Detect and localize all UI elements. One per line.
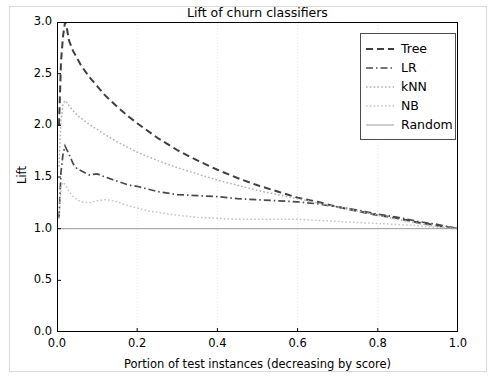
- x-tick-label: 0.4: [194, 336, 240, 350]
- x-tick-label: 0.6: [275, 336, 321, 350]
- legend-label: Tree: [401, 41, 427, 56]
- legend-swatch-nb-icon: [365, 99, 395, 113]
- legend-item-knn[interactable]: kNN: [365, 77, 451, 96]
- legend-item-tree[interactable]: Tree: [365, 39, 451, 58]
- legend[interactable]: TreeLRkNNNBRandom: [360, 33, 456, 140]
- figure: Lift of churn classifiers Lift 0.00.51.0…: [0, 0, 496, 384]
- series-line-lr: [59, 146, 458, 229]
- x-tick-label: 1.0: [435, 336, 481, 350]
- legend-label: Random: [401, 117, 453, 132]
- x-axis-label: Portion of test instances (decreasing by…: [57, 357, 458, 371]
- x-tick-label: 0.0: [34, 336, 80, 350]
- legend-label: kNN: [401, 79, 427, 94]
- x-tick-label: 0.8: [355, 336, 401, 350]
- legend-swatch-tree-icon: [365, 42, 395, 56]
- legend-item-nb[interactable]: NB: [365, 96, 451, 115]
- series-line-nb: [59, 182, 458, 229]
- legend-swatch-lr-icon: [365, 61, 395, 75]
- legend-item-random[interactable]: Random: [365, 115, 451, 134]
- legend-label: NB: [401, 98, 419, 113]
- legend-swatch-knn-icon: [365, 80, 395, 94]
- x-tick-label: 0.2: [114, 336, 160, 350]
- legend-item-lr[interactable]: LR: [365, 58, 451, 77]
- legend-label: LR: [401, 60, 417, 75]
- legend-swatch-random-icon: [365, 118, 395, 132]
